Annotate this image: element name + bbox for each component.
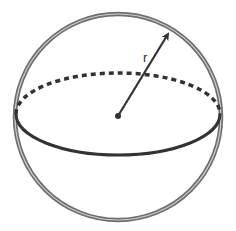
radius-arrow: [118, 34, 168, 116]
equator-front-solid: [16, 114, 220, 155]
sphere-diagram: r: [0, 0, 236, 231]
center-point: [115, 113, 121, 119]
equator-back-dashed: [16, 73, 220, 114]
radius-label: r: [143, 50, 148, 65]
